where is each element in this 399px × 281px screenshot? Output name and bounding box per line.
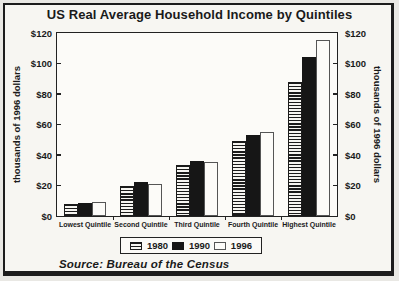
bar-1996-fourth-quintile xyxy=(260,132,274,216)
y-tick-label-right-120: $120 xyxy=(345,28,379,39)
legend-label-1980: 1980 xyxy=(147,240,168,251)
y-tick-mark-right-100 xyxy=(333,63,337,65)
y-tick-label-left-120: $120 xyxy=(18,28,52,39)
y-tick-label-left-100: $100 xyxy=(18,58,52,69)
y-tick-mark-right-80 xyxy=(333,93,337,95)
legend-item-1980: 1980 xyxy=(130,240,168,251)
bar-1996-highest-quintile xyxy=(316,40,330,216)
y-tick-label-left-80: $80 xyxy=(18,89,52,100)
bar-1990-third-quintile xyxy=(190,161,204,216)
y-tick-label-left-60: $60 xyxy=(18,119,52,130)
bar-1980-lowest-quintile xyxy=(64,204,78,216)
category-label-second-quintile: Second Quintile xyxy=(112,221,170,228)
chart-page: US Real Average Household Income by Quin… xyxy=(0,0,399,281)
category-label-fourth-quintile: Fourth Quintile xyxy=(224,221,282,228)
bar-1996-lowest-quintile xyxy=(92,202,106,216)
legend-swatch-1996 xyxy=(214,242,226,250)
y-tick-label-right-40: $40 xyxy=(345,150,379,161)
y-tick-mark-left-80 xyxy=(57,93,61,95)
y-tick-label-right-0: $0 xyxy=(345,211,379,222)
bar-1990-highest-quintile xyxy=(302,57,316,216)
legend-swatch-1980 xyxy=(130,242,142,250)
legend-label-1996: 1996 xyxy=(231,240,252,251)
category-label-third-quintile: Third Quintile xyxy=(168,221,226,228)
source-note: Source: Bureau of the Census xyxy=(59,258,229,270)
y-tick-label-right-20: $20 xyxy=(345,180,379,191)
bar-1996-second-quintile xyxy=(148,184,162,216)
y-tick-label-left-20: $20 xyxy=(18,180,52,191)
x-tick-mark-4 xyxy=(281,217,283,220)
bar-1980-fourth-quintile xyxy=(232,141,246,216)
legend: 198019901996 xyxy=(120,237,262,254)
x-tick-mark-1 xyxy=(113,217,115,220)
bar-1990-lowest-quintile xyxy=(78,203,92,216)
y-tick-label-left-0: $0 xyxy=(18,211,52,222)
bar-1980-second-quintile xyxy=(120,186,134,217)
legend-item-1996: 1996 xyxy=(214,240,252,251)
category-label-lowest-quintile: Lowest Quintile xyxy=(56,221,114,228)
y-tick-label-left-40: $40 xyxy=(18,150,52,161)
legend-label-1990: 1990 xyxy=(189,240,210,251)
legend-swatch-1990 xyxy=(172,242,184,250)
plot-area xyxy=(56,32,338,217)
chart-title: US Real Average Household Income by Quin… xyxy=(0,7,399,22)
bar-1980-highest-quintile xyxy=(288,82,302,216)
y-tick-mark-left-40 xyxy=(57,154,61,156)
y-tick-mark-right-20 xyxy=(333,185,337,187)
y-tick-mark-right-40 xyxy=(333,154,337,156)
y-tick-label-right-60: $60 xyxy=(345,119,379,130)
bar-1996-third-quintile xyxy=(204,162,218,216)
bar-1990-fourth-quintile xyxy=(246,135,260,216)
x-tick-mark-2 xyxy=(169,217,171,220)
y-tick-label-right-80: $80 xyxy=(345,89,379,100)
y-tick-label-right-100: $100 xyxy=(345,58,379,69)
bar-1990-second-quintile xyxy=(134,182,148,216)
y-tick-mark-left-100 xyxy=(57,63,61,65)
y-tick-mark-left-20 xyxy=(57,185,61,187)
category-label-highest-quintile: Highest Quintile xyxy=(280,221,338,228)
x-tick-mark-3 xyxy=(225,217,227,220)
y-tick-mark-left-60 xyxy=(57,124,61,126)
y-tick-mark-right-60 xyxy=(333,124,337,126)
bar-1980-third-quintile xyxy=(176,165,190,216)
legend-item-1990: 1990 xyxy=(172,240,210,251)
